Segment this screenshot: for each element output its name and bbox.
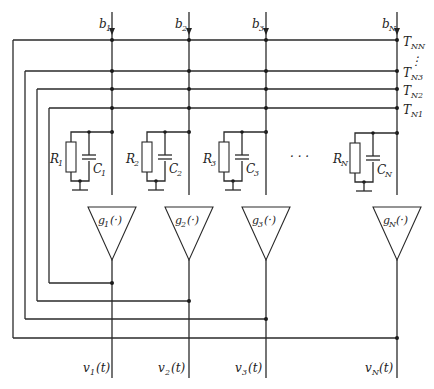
svg-text:(t): (t) bbox=[96, 361, 111, 375]
rc-circuit-1 bbox=[66, 130, 112, 190]
svg-text:(t): (t) bbox=[379, 361, 394, 375]
rc-circuit-3 bbox=[219, 130, 266, 190]
svg-text:2: 2 bbox=[176, 169, 182, 178]
svg-text:NN: NN bbox=[410, 42, 426, 51]
feedback-verticals bbox=[13, 40, 49, 338]
svg-text:v: v bbox=[235, 361, 242, 375]
svg-text:3: 3 bbox=[258, 220, 263, 229]
svg-text:1: 1 bbox=[90, 368, 95, 377]
resistor-r1 bbox=[66, 142, 76, 172]
svg-text:(t): (t) bbox=[248, 361, 263, 375]
svg-text:2: 2 bbox=[181, 24, 187, 33]
svg-text:1: 1 bbox=[106, 24, 111, 33]
svg-text:(·): (·) bbox=[187, 214, 199, 227]
svg-text:N: N bbox=[388, 24, 397, 33]
svg-text:N1: N1 bbox=[410, 110, 423, 119]
svg-text:v: v bbox=[365, 361, 372, 375]
svg-text:3: 3 bbox=[259, 24, 264, 33]
svg-text:N2: N2 bbox=[410, 91, 423, 100]
neural-circuit-diagram: b 1 b 2 b 3 b N T NN ⋮ T N3 T N2 T N1 R … bbox=[0, 0, 434, 389]
feedback-bottom bbox=[13, 283, 397, 338]
svg-text:3: 3 bbox=[211, 159, 216, 168]
svg-text:v: v bbox=[158, 361, 165, 375]
svg-text:1: 1 bbox=[104, 220, 109, 229]
svg-text:3: 3 bbox=[254, 169, 259, 178]
svg-text:2: 2 bbox=[133, 159, 139, 168]
column-ellipsis: · · · bbox=[290, 150, 309, 164]
column-wires bbox=[112, 12, 397, 378]
input-labels: b 1 b 2 b 3 b N bbox=[99, 17, 397, 33]
connection-labels: T NN ⋮ T N3 T N2 T N1 bbox=[403, 35, 426, 119]
svg-text:(t): (t) bbox=[171, 361, 186, 375]
svg-text:v: v bbox=[83, 361, 90, 375]
rc-circuit-n bbox=[350, 131, 397, 191]
svg-text:⋮: ⋮ bbox=[410, 54, 422, 68]
svg-text:2: 2 bbox=[164, 368, 170, 377]
svg-text:N3: N3 bbox=[410, 73, 423, 82]
svg-text:(·): (·) bbox=[396, 214, 408, 227]
junction-dots bbox=[110, 38, 399, 340]
svg-text:N: N bbox=[384, 170, 393, 179]
svg-text:(·): (·) bbox=[264, 214, 276, 227]
svg-text:3: 3 bbox=[242, 368, 247, 377]
rc-circuit-2 bbox=[142, 130, 189, 190]
svg-text:2: 2 bbox=[180, 220, 186, 229]
amplifier-labels: g 1 (·) g 2 (·) g 3 (·) g N (·) bbox=[98, 214, 408, 229]
resistor-r3 bbox=[219, 142, 229, 172]
resistor-rn bbox=[350, 143, 360, 173]
svg-text:N: N bbox=[340, 159, 349, 168]
svg-text:1: 1 bbox=[58, 159, 63, 168]
svg-text:1: 1 bbox=[101, 169, 106, 178]
resistor-r2 bbox=[142, 142, 152, 172]
connection-bus-top bbox=[13, 40, 397, 108]
output-labels: v 1 (t) v 2 (t) v 3 (t) v N (t) bbox=[83, 361, 394, 377]
svg-text:(·): (·) bbox=[110, 214, 122, 227]
